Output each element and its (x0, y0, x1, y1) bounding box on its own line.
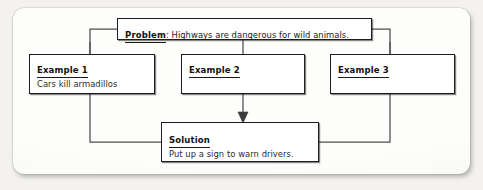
example-1-content: Example 1 Cars kill armadillos (37, 58, 148, 90)
solution-text: Put up a sign to warn drivers. (169, 149, 312, 160)
solution-label: Solution (169, 135, 210, 148)
example-2-content: Example 2 (189, 58, 298, 79)
problem-box: Problem: Highways are dangerous for wild… (117, 18, 372, 40)
example-1-label: Example 1 (37, 65, 88, 78)
example-2-box: Example 2 (181, 54, 305, 94)
example-3-box: Example 3 (330, 54, 455, 94)
problem-box-content: Problem: Highways are dangerous for wild… (125, 23, 365, 43)
example-3-label: Example 3 (338, 65, 389, 78)
solution-content: Solution Put up a sign to warn drivers. (169, 128, 312, 160)
diagram-stage: Problem: Highways are dangerous for wild… (13, 8, 470, 174)
problem-text: Highways are dangerous for wild animals. (172, 30, 349, 40)
solution-box: Solution Put up a sign to warn drivers. (161, 122, 319, 162)
worksheet-card: Problem: Highways are dangerous for wild… (13, 8, 470, 174)
example-1-box: Example 1 Cars kill armadillos (29, 54, 155, 94)
example-1-text: Cars kill armadillos (37, 79, 148, 90)
problem-label: Problem (125, 30, 166, 43)
example-3-content: Example 3 (338, 58, 448, 79)
example-2-label: Example 2 (189, 65, 240, 78)
